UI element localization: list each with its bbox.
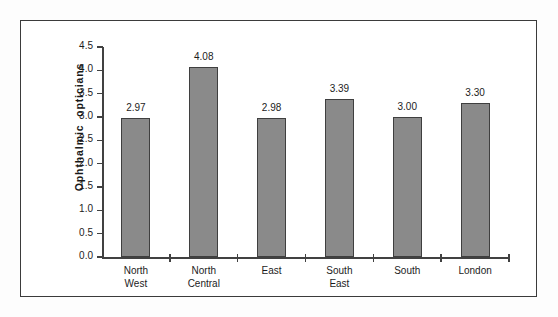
bar-value-label: 3.00 [377,101,437,112]
bar-value-label: 3.39 [309,83,369,94]
x-axis-category-label: London [435,265,515,278]
y-axis-tick-label-row: 3.0 [21,117,103,118]
y-axis-tick-label-row: 1.0 [21,210,103,211]
chart-frame: Ophthalmic opticians 4.54.03.53.02.52.01… [20,20,537,297]
x-axis-tick [373,254,374,262]
bar [257,118,286,257]
x-axis-tick [440,254,441,262]
y-axis-tick-label: 1.0 [49,203,93,214]
bar [325,99,354,257]
y-axis-tick-label-row: 2.0 [21,164,103,165]
bar-value-label: 2.97 [106,102,166,113]
bar [393,117,422,257]
x-axis-tick [237,254,238,262]
y-axis-tick-label: 2.0 [49,157,93,168]
bar [461,103,490,257]
y-axis-line [102,47,104,258]
y-axis-tick-label: 0.0 [49,250,93,261]
x-axis-tick [305,254,306,262]
bar-value-label: 3.30 [445,87,505,98]
y-axis-tick-label: 4.0 [49,63,93,74]
y-axis-tick-label-row: 0.0 [21,257,103,258]
y-axis-tick-label-row: 2.5 [21,140,103,141]
y-axis-tick-label: 2.5 [49,133,93,144]
y-axis-tick-label: 3.0 [49,110,93,121]
x-axis-tick [169,254,170,262]
y-axis-tick-label-row: 4.5 [21,47,103,48]
bar-value-label: 4.08 [174,51,234,62]
x-axis-tick [508,254,509,262]
bar-value-label: 2.98 [242,102,302,113]
plot-area: Ophthalmic opticians 4.54.03.53.02.52.01… [21,21,538,298]
figure: Ophthalmic opticians 4.54.03.53.02.52.01… [0,0,558,317]
y-axis-tick-label-row: 0.5 [21,234,103,235]
y-axis-tick-label-row: 4.0 [21,70,103,71]
y-axis-tick-label: 4.5 [49,40,93,51]
y-axis-tick-label: 1.5 [49,180,93,191]
bar [121,118,150,257]
y-axis-tick-label: 3.5 [49,87,93,98]
y-axis-tick-label-row: 3.5 [21,94,103,95]
y-axis-tick-label: 0.5 [49,227,93,238]
y-axis-tick-label-row: 1.5 [21,187,103,188]
bar [189,67,218,257]
